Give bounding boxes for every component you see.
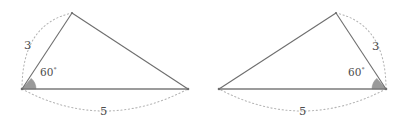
left-angle-value: 60 — [40, 66, 53, 78]
left-triangle-side-hypotenuse — [72, 13, 188, 89]
right-triangle-label-angle: 60° — [348, 67, 365, 78]
figure-canvas — [0, 0, 407, 129]
right-triangle-vertex-left-dot — [218, 88, 221, 91]
left-triangle-vertex-right-dot — [187, 88, 190, 91]
left-triangle-label-side-5: 5 — [100, 106, 107, 118]
left-angle-degree-icon: ° — [53, 66, 56, 74]
left-triangle-label-angle: 60° — [40, 67, 57, 78]
right-angle-degree-icon: ° — [361, 66, 364, 74]
left-triangle-vertex-apex-dot — [71, 12, 73, 14]
right-triangle-vertex-right-dot — [385, 88, 388, 91]
right-angle-value: 60 — [348, 66, 361, 78]
right-triangle-side-hypotenuse — [219, 13, 336, 89]
left-triangle-angle-wedge — [22, 78, 36, 89]
right-triangle-label-side-3: 3 — [372, 41, 379, 53]
right-triangle-label-side-5: 5 — [299, 106, 306, 118]
left-triangle-label-side-3: 3 — [24, 40, 31, 52]
left-triangle-group — [21, 12, 190, 111]
right-triangle-group — [218, 12, 388, 111]
right-triangle-angle-wedge — [372, 78, 386, 89]
geometry-figure: 3 5 60° 3 5 60° — [0, 0, 407, 129]
right-triangle-vertex-apex-dot — [335, 12, 337, 14]
left-triangle-vertex-left-dot — [21, 88, 24, 91]
